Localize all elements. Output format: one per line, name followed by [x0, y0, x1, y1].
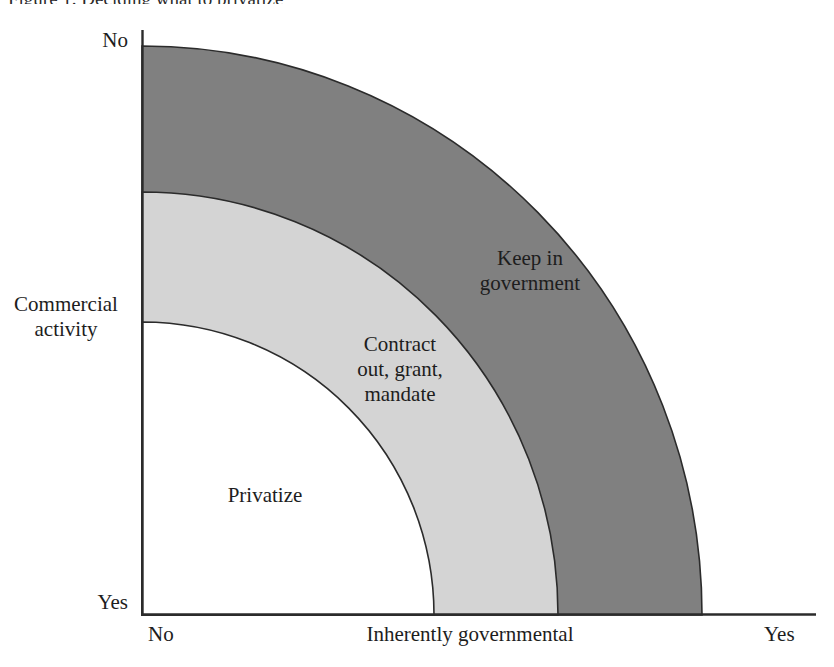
y-axis-title: Commercial activity: [0, 292, 132, 342]
y-axis-tick-top: No: [72, 28, 128, 53]
x-axis-tick-left: No: [148, 622, 174, 647]
region-label-contract-out: Contract out, grant, mandate: [300, 332, 500, 406]
region-label-privatize: Privatize: [175, 483, 355, 508]
x-axis-title: Inherently governmental: [320, 622, 620, 647]
region-label-keep-in-government: Keep in government: [440, 246, 620, 296]
x-axis-tick-right: Yes: [764, 622, 795, 647]
y-axis-tick-bottom: Yes: [64, 590, 128, 615]
figure-container: Figure 1. Deciding what to privatize No …: [0, 0, 834, 667]
